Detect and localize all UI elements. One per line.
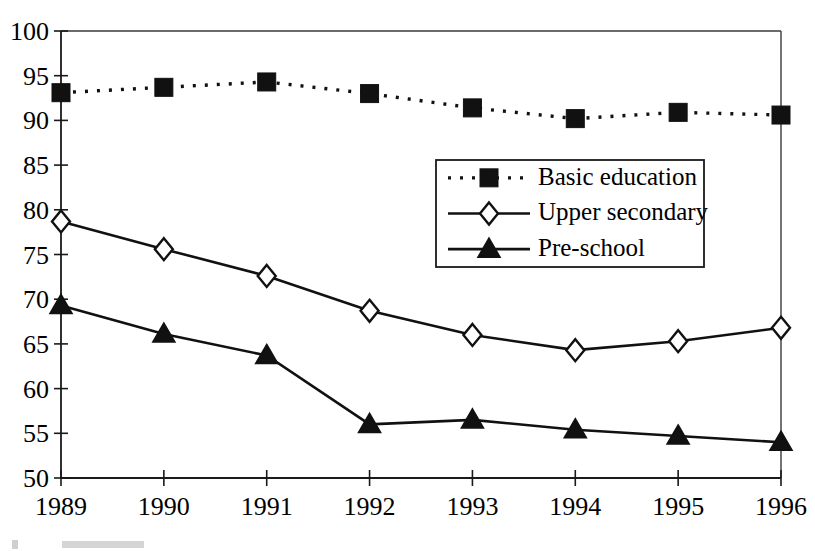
y-tick-label: 55 — [23, 419, 49, 448]
y-tick-label: 75 — [23, 241, 49, 270]
data-point-marker — [463, 99, 481, 117]
data-point-marker — [669, 103, 687, 121]
data-point-marker — [463, 324, 481, 346]
data-point-marker — [52, 210, 70, 232]
y-tick-label: 70 — [23, 285, 49, 314]
data-point-marker — [258, 265, 276, 287]
data-point-marker — [461, 409, 483, 428]
y-tick-label: 80 — [23, 196, 49, 225]
data-point-marker — [566, 110, 584, 128]
data-point-marker — [52, 84, 70, 102]
data-point-marker — [361, 300, 379, 322]
data-point-marker — [155, 238, 173, 260]
data-point-marker — [361, 85, 379, 103]
legend-label: Basic education — [538, 163, 697, 190]
y-tick-label: 65 — [23, 330, 49, 359]
x-tick-label: 1993 — [446, 492, 498, 521]
x-tick-label: 1995 — [652, 492, 704, 521]
data-point-marker — [155, 78, 173, 96]
data-point-marker — [50, 294, 72, 313]
legend-marker-sample — [480, 169, 498, 187]
data-point-marker — [772, 317, 790, 339]
x-tick-label: 1991 — [241, 492, 293, 521]
chart-container: 50556065707580859095100 1989199019911992… — [0, 0, 815, 551]
data-point-marker — [772, 106, 790, 124]
y-tick-label: 85 — [23, 151, 49, 180]
y-tick-label: 95 — [23, 62, 49, 91]
x-tick-label: 1992 — [344, 492, 396, 521]
data-point-marker — [669, 330, 687, 352]
y-tick-label: 100 — [10, 17, 49, 46]
y-tick-label: 90 — [23, 106, 49, 135]
series-pre-school — [50, 294, 792, 450]
legend-label: Pre-school — [538, 234, 645, 261]
data-point-marker — [566, 339, 584, 361]
x-tick-label: 1990 — [138, 492, 190, 521]
caption-remnant — [12, 540, 144, 549]
line-chart: 50556065707580859095100 1989199019911992… — [0, 0, 815, 551]
x-tick-label: 1989 — [35, 492, 87, 521]
x-tick-label: 1994 — [549, 492, 601, 521]
y-tick-label: 60 — [23, 375, 49, 404]
data-point-marker — [258, 73, 276, 91]
chart-legend: Basic educationUpper secondaryPre-school — [436, 160, 709, 267]
y-tick-label: 50 — [23, 464, 49, 493]
series-path — [61, 305, 781, 442]
x-tick-label: 1996 — [755, 492, 807, 521]
legend-label: Upper secondary — [538, 198, 709, 225]
series-basic-education — [52, 73, 790, 128]
